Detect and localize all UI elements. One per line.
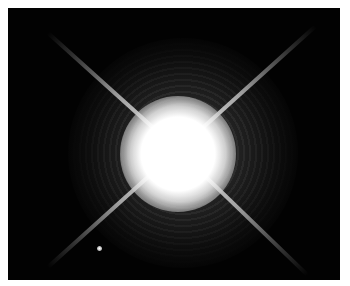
star-photograph: Astronomical photograph: a saturated whi… (8, 8, 340, 280)
faint-companion-star (97, 246, 102, 251)
bright-star-core (120, 96, 236, 212)
